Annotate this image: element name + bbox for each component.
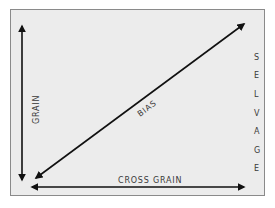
selvage-letter: G xyxy=(254,146,260,155)
selvage-letter: L xyxy=(254,90,259,99)
grain-label: GRAIN xyxy=(32,95,41,124)
grain-diagram: GRAIN BIAS CROSS GRAIN S E L V A G E xyxy=(0,0,275,208)
selvage-letter: E xyxy=(254,164,259,173)
bias-arrow xyxy=(36,24,244,178)
selvage-letter: E xyxy=(254,71,259,80)
selvage-letter: S xyxy=(254,53,259,62)
selvage-label: S E L V A G E xyxy=(254,53,260,173)
selvage-letter: A xyxy=(254,127,260,136)
selvage-letter: V xyxy=(254,109,260,118)
cross-grain-label: CROSS GRAIN xyxy=(118,176,182,185)
